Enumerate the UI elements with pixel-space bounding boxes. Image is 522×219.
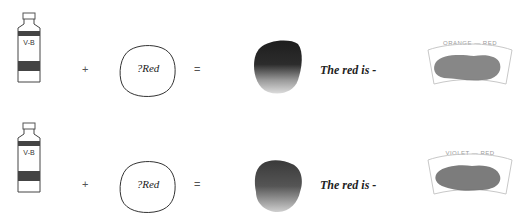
- result-text: The red is -: [320, 63, 376, 78]
- blob-label: ?Red: [118, 178, 178, 190]
- mystery-red-blob: ?Red: [118, 160, 178, 214]
- equals-sign: =: [194, 63, 200, 75]
- plus-sign: +: [82, 63, 88, 75]
- color-swatch-card: ORANGE — RED: [420, 28, 520, 88]
- plus-sign: +: [82, 178, 88, 190]
- paint-tube-icon: V-B: [14, 122, 44, 198]
- tube-label: V-B: [14, 39, 44, 46]
- mixed-wash-swatch: [250, 38, 304, 92]
- tube-label: V-B: [14, 149, 44, 156]
- paint-tube-icon: V-B: [14, 12, 44, 88]
- result-text: The red is -: [320, 178, 376, 193]
- mixing-row-2: V-B + ?Red = The red is - VIOLET — RED: [0, 110, 522, 210]
- mystery-red-blob: ?Red: [118, 44, 178, 98]
- mixed-wash-swatch: [250, 156, 304, 210]
- mixing-row-1: V-B + ?Red = The red is - ORANGE — RED: [0, 0, 522, 100]
- blob-label: ?Red: [118, 62, 178, 74]
- color-swatch-card: VIOLET — RED: [420, 138, 520, 198]
- equals-sign: =: [194, 178, 200, 190]
